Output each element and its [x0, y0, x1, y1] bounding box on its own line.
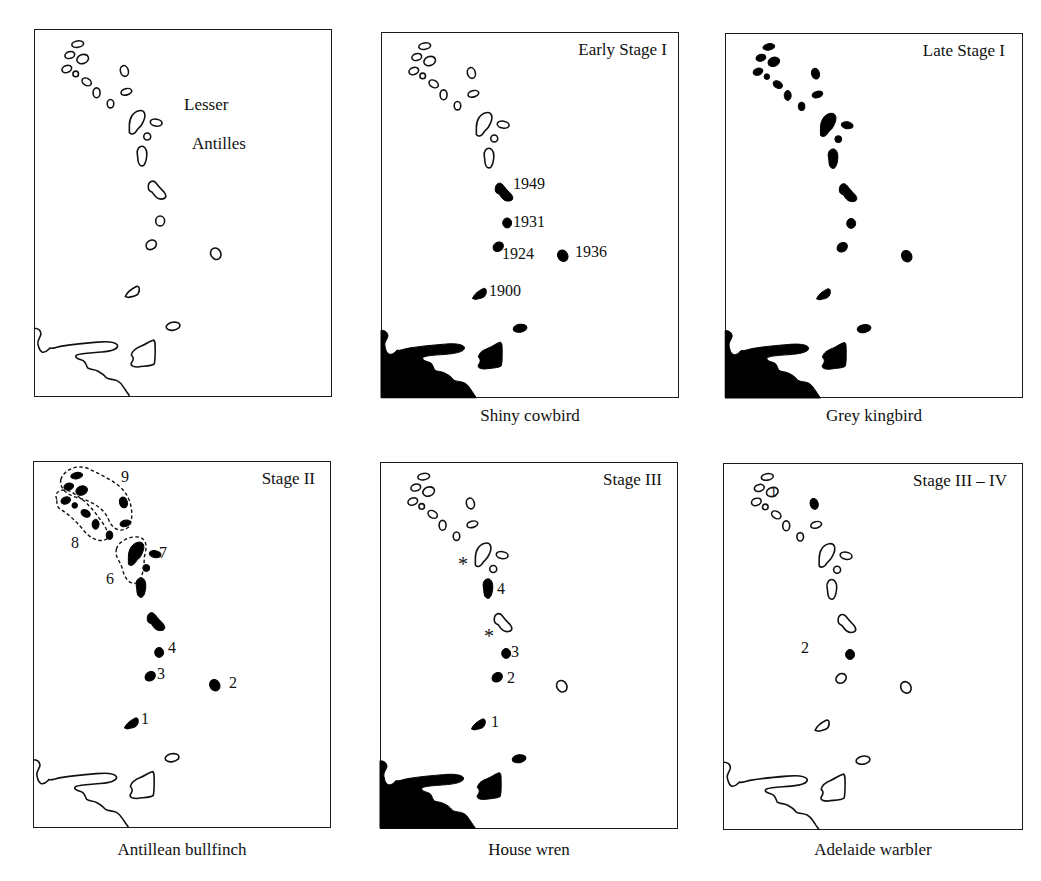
year-label: 1924 [502, 246, 534, 262]
subspecies-label: 1 [141, 711, 149, 727]
map-panel-adelaide-warbler: Stage III – IV 1 2 [723, 463, 1023, 830]
species-caption: Shiny cowbird [381, 406, 679, 426]
subspecies-label: 4 [168, 640, 176, 656]
map-panel-house-wren: Stage III 4 3 2 1 * * [380, 462, 678, 829]
stage-label: Late Stage I [923, 41, 1005, 61]
region-label-line1: Lesser [184, 95, 228, 115]
subspecies-label: 2 [801, 640, 809, 656]
subspecies-label: 8 [71, 535, 79, 551]
islands-map [33, 461, 331, 828]
map-panel-base: Lesser Antilles [34, 29, 332, 397]
subspecies-label: 2 [507, 670, 515, 686]
subspecies-label: 2 [229, 675, 237, 691]
extinct-marker: * [484, 626, 494, 646]
subspecies-label: 6 [106, 571, 114, 587]
map-panel-antillean-bullfinch: Stage II 9 8 7 6 4 3 2 1 [33, 461, 331, 828]
islands-map [380, 462, 678, 829]
map-panel-shiny-cowbird: Early Stage I 1949 1931 1924 1936 1900 [381, 32, 679, 398]
stage-label: Stage II [262, 469, 315, 489]
year-label: 1936 [575, 244, 607, 260]
islands-map [725, 33, 1023, 398]
species-caption: Grey kingbird [725, 406, 1023, 426]
year-label: 1931 [513, 214, 545, 230]
subspecies-label: 7 [159, 545, 167, 561]
species-caption: Antillean bullfinch [33, 840, 331, 860]
extinct-marker: * [458, 554, 468, 574]
subspecies-label: 1 [770, 486, 777, 500]
region-label-line2: Antilles [192, 134, 246, 154]
islands-map [34, 29, 332, 397]
map-panel-grey-kingbird: Late Stage I [725, 33, 1023, 398]
year-label: 1900 [489, 283, 521, 299]
stage-label: Stage III [603, 470, 662, 490]
subspecies-label: 4 [497, 581, 505, 597]
species-caption: Adelaide warbler [723, 840, 1023, 860]
subspecies-label: 1 [491, 714, 499, 730]
stage-label: Early Stage I [578, 40, 667, 60]
year-label: 1949 [513, 176, 545, 192]
islands-map [723, 463, 1023, 830]
stage-label: Stage III – IV [913, 471, 1007, 491]
species-caption: House wren [380, 840, 678, 860]
subspecies-label: 3 [157, 666, 165, 682]
subspecies-label: 3 [511, 644, 519, 660]
subspecies-label: 9 [121, 469, 129, 485]
